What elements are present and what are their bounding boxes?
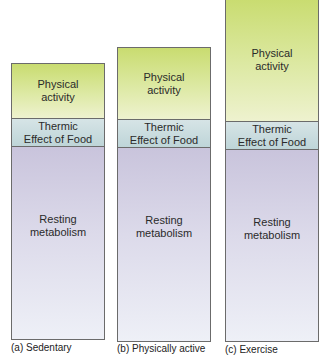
segment-label: Physical bbox=[252, 47, 293, 59]
caption-exercise: (c) Exercise bbox=[225, 344, 278, 355]
segment-label: Resting bbox=[145, 214, 182, 226]
segment-label: metabolism bbox=[30, 226, 86, 238]
segment-resting-metabolism: Restingmetabolism bbox=[12, 147, 104, 339]
segment-thermic-effect: ThermicEffect of Food bbox=[12, 119, 104, 147]
segment-label: activity bbox=[147, 84, 181, 96]
segment-label: Physical bbox=[38, 78, 79, 90]
segment-label: Effect of Food bbox=[130, 134, 198, 146]
segment-physical-activity: Physicalactivity bbox=[118, 48, 210, 120]
segment-thermic-effect: ThermicEffect of Food bbox=[226, 122, 318, 150]
segment-label: Physical bbox=[144, 71, 185, 83]
segment-thermic-effect: ThermicEffect of Food bbox=[118, 120, 210, 148]
segment-resting-metabolism: Restingmetabolism bbox=[226, 150, 318, 341]
bar-physically-active: Physicalactivity ThermicEffect of Food R… bbox=[117, 47, 211, 342]
bar-sedentary: Physicalactivity ThermicEffect of Food R… bbox=[11, 63, 105, 340]
segment-label: Effect of Food bbox=[24, 133, 92, 145]
segment-label: Thermic bbox=[252, 123, 292, 135]
bar-exercise: Physicalactivity ThermicEffect of Food R… bbox=[225, 0, 319, 342]
segment-label: Effect of Food bbox=[238, 136, 306, 148]
segment-label: Resting bbox=[253, 216, 290, 228]
caption-physically-active: (b) Physically active bbox=[117, 343, 205, 354]
segment-label: Thermic bbox=[38, 120, 78, 132]
segment-label: metabolism bbox=[244, 229, 300, 241]
caption-sedentary: (a) Sedentary bbox=[11, 342, 72, 353]
segment-label: Thermic bbox=[144, 121, 184, 133]
segment-label: metabolism bbox=[136, 227, 192, 239]
segment-label: Resting bbox=[39, 213, 76, 225]
segment-label: activity bbox=[255, 60, 289, 72]
segment-label: activity bbox=[41, 91, 75, 103]
segment-resting-metabolism: Restingmetabolism bbox=[118, 148, 210, 341]
segment-physical-activity: Physicalactivity bbox=[12, 64, 104, 119]
segment-physical-activity: Physicalactivity bbox=[226, 0, 318, 122]
